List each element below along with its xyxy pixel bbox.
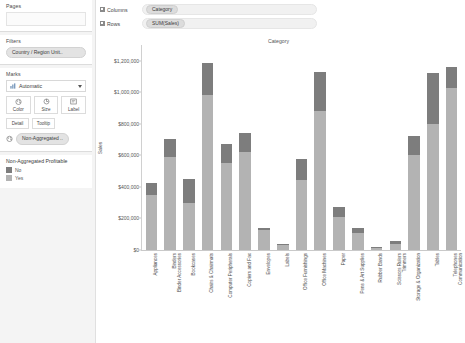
bar-segment-no[interactable] (314, 72, 326, 111)
bar-segment-yes[interactable] (146, 195, 158, 251)
bar-column[interactable] (314, 72, 326, 250)
pages-title: Pages (6, 3, 86, 9)
mark-type-label: Automatic (19, 83, 78, 89)
y-axis-tick-label: $200,000 (118, 215, 139, 221)
legend-swatch-no (6, 167, 12, 173)
x-axis-tick-label[interactable]: Envelopes (266, 253, 271, 274)
bar-segment-no[interactable] (296, 159, 308, 180)
rows-shelf-field[interactable]: SUM(Sales) (142, 18, 317, 29)
x-axis-tick-label[interactable]: BindersBinder Accessories (172, 253, 182, 292)
color-legend-card: Non-Aggregated Profitable No Yes (0, 155, 92, 188)
size-button-label: Size (42, 107, 51, 112)
legend-item-no[interactable]: No (6, 167, 86, 173)
bar-column[interactable] (164, 139, 176, 250)
pill-sum-sales[interactable]: SUM(Sales) (146, 19, 185, 29)
marks-encoding-pill[interactable]: Non-Aggregated .. (16, 133, 69, 144)
bar-segment-yes[interactable] (296, 180, 308, 250)
label-button[interactable]: Label (61, 96, 86, 114)
bar-segment-yes[interactable] (333, 217, 345, 250)
bar-column[interactable] (390, 241, 402, 250)
columns-shelf[interactable]: Columns Category (100, 4, 459, 15)
x-axis-tick-label[interactable]: TelephonesCommunication (453, 253, 463, 285)
x-axis-tick-label[interactable]: Appliances (153, 253, 158, 275)
left-panel: Pages Filters Country / Region Unit.. Ma… (0, 0, 92, 343)
tooltip-button[interactable]: Tooltip (32, 118, 55, 129)
bar-column[interactable] (446, 67, 458, 250)
rows-shelf[interactable]: Rows SUM(Sales) (100, 18, 459, 29)
bar-segment-yes[interactable] (164, 157, 176, 250)
bar-segment-no[interactable] (221, 144, 233, 163)
bar-column[interactable] (258, 228, 270, 250)
size-button[interactable]: Size (34, 96, 59, 114)
bar-segment-yes[interactable] (221, 163, 233, 250)
bar-segment-yes[interactable] (202, 95, 214, 250)
mark-type-select[interactable]: Automatic (6, 80, 86, 92)
bar-column[interactable] (296, 159, 308, 250)
y-axis[interactable]: $1,200,000$1,000,000$800,000$600,000$400… (103, 45, 141, 250)
bar-column[interactable] (352, 228, 364, 250)
bar-chart-icon (10, 83, 16, 89)
x-axis-tick-label[interactable]: Labels (285, 253, 290, 267)
x-axis-tick-label[interactable]: Pens & Art Supplies (360, 253, 365, 294)
columns-shelf-name: Columns (100, 7, 142, 13)
columns-shelf-label: Columns (107, 7, 127, 13)
columns-shelf-field[interactable]: Category (142, 4, 317, 15)
detail-button[interactable]: Detail (6, 118, 29, 129)
x-axis-tick-label[interactable]: Rubber Bands (378, 253, 383, 282)
rows-shelf-label: Rows (107, 21, 120, 27)
bar-column[interactable] (221, 144, 233, 250)
bar-segment-yes[interactable] (258, 230, 270, 251)
bar-segment-no[interactable] (202, 63, 214, 95)
bar-segment-no[interactable] (146, 183, 158, 195)
x-axis-tick-label[interactable]: Storage & Organization (416, 253, 421, 301)
filters-title: Filters (6, 38, 86, 44)
y-axis-tick-label: $800,000 (118, 121, 139, 127)
pages-dropzone[interactable] (6, 12, 86, 26)
x-axis-tick-label[interactable]: Computer Peripherals (228, 253, 233, 298)
bar-segment-no[interactable] (446, 67, 458, 88)
bar-segment-yes[interactable] (314, 111, 326, 250)
x-axis-tick-label[interactable]: Office Machines (322, 253, 327, 286)
x-axis-tick-label[interactable]: Bookcases (191, 253, 196, 275)
bar-segment-no[interactable] (427, 73, 439, 123)
y-axis-tick-label: $1,200,000 (114, 58, 139, 64)
rows-shelf-name: Rows (100, 21, 142, 27)
bar-column[interactable] (146, 183, 158, 250)
bar-segment-no[interactable] (333, 207, 345, 216)
size-icon (43, 98, 50, 106)
bar-segment-yes[interactable] (446, 88, 458, 250)
color-button[interactable]: Color (6, 96, 31, 114)
bar-segment-no[interactable] (408, 136, 420, 155)
x-axis-labels[interactable]: AppliancesBindersBinder AccessoriesBookc… (142, 251, 461, 323)
plot-canvas (142, 45, 461, 250)
bar-segment-no[interactable] (164, 139, 176, 156)
bar-segment-yes[interactable] (427, 124, 439, 250)
x-axis-tick-label[interactable]: Tables (435, 253, 440, 266)
tooltip-button-label: Tooltip (37, 121, 50, 126)
bar-segment-no[interactable] (239, 133, 251, 152)
bar-column[interactable] (427, 73, 439, 250)
bar-segment-yes[interactable] (183, 203, 195, 250)
bar-column[interactable] (408, 136, 420, 250)
x-axis-tick-label[interactable]: Copiers and Fax (247, 253, 252, 287)
y-axis-tick-label: $600,000 (118, 152, 139, 158)
bar-column[interactable] (202, 63, 214, 250)
x-axis-tick-label[interactable]: Scissors RulersTrimmers (397, 253, 407, 285)
bar-segment-yes[interactable] (352, 233, 364, 250)
bar-segment-no[interactable] (183, 179, 195, 203)
bar-column[interactable] (239, 133, 251, 250)
bar-segment-yes[interactable] (239, 152, 251, 250)
legend-title: Non-Aggregated Profitable (6, 158, 86, 164)
bar-column[interactable] (333, 207, 345, 250)
filter-pill-country-region[interactable]: Country / Region Unit.. (6, 47, 86, 58)
color-palette-icon (15, 98, 22, 106)
x-axis-tick-label[interactable]: Chairs & Chairmats (209, 253, 214, 293)
shelf-container: Columns Category Rows SUM(Sales) (96, 0, 465, 29)
x-axis-tick-label[interactable]: Paper (341, 253, 346, 265)
bar-segment-yes[interactable] (408, 155, 420, 250)
detail-button-label: Detail (12, 121, 24, 126)
legend-item-yes[interactable]: Yes (6, 175, 86, 181)
x-axis-tick-label[interactable]: Office Furnishings (303, 253, 308, 290)
bar-column[interactable] (183, 179, 195, 250)
pill-category[interactable]: Category (146, 5, 178, 15)
